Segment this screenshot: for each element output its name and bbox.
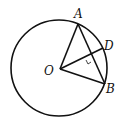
label-o: O [44, 64, 54, 78]
circle-o [11, 20, 107, 116]
label-a: A [73, 7, 83, 21]
diagram-canvas: A D O B [0, 0, 123, 123]
label-d: D [103, 39, 114, 53]
radius-ob [60, 69, 105, 84]
right-angle-mark [86, 60, 91, 64]
label-b: B [105, 82, 115, 96]
geometry-figure: A D O B [0, 0, 123, 123]
